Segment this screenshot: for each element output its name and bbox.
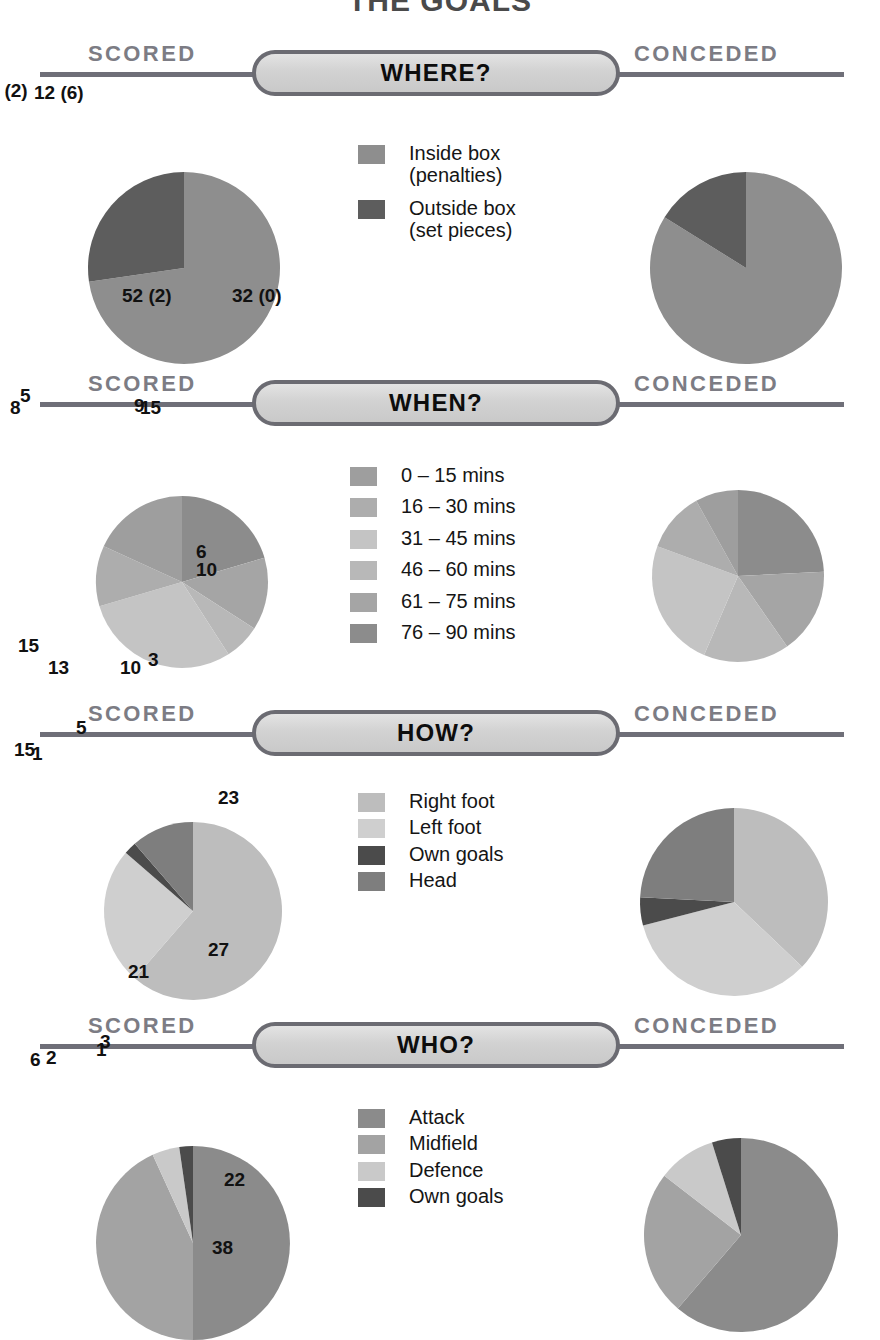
legend-swatch [350,561,377,580]
legend-swatch [350,624,377,643]
legend-label: Outside box (set pieces) [409,197,516,242]
legend-item: Attack [358,1106,504,1128]
slice-value-label: 8 [10,398,21,417]
legend-item: 0 – 15 mins [350,464,516,486]
legend-item: Right foot [358,790,504,812]
charts-row-who: 221921381563 Attack Midfield Defence Own… [0,1062,880,1332]
rule-right [616,1044,844,1049]
legend-who: Attack Midfield Defence Own goals [358,1106,504,1212]
rule-right [616,732,844,737]
rule-right [616,72,844,77]
section-heading: WHO? [397,1031,475,1059]
slice-value-label: 23 [218,788,239,807]
slice-value-label: 38 [212,1238,233,1257]
rule-left [40,1044,258,1049]
label-conceded: CONCEDED [634,1013,779,1039]
charts-row-how: 2711152321315 Right foot Left foot Own g… [0,750,880,1010]
legend-swatch [350,498,377,517]
legend-swatch [358,145,385,164]
charts-row-when: 96313581510101575 0 – 15 mins 16 – 30 mi… [0,420,880,688]
legend-item: Midfield [358,1132,504,1154]
legend-label: 31 – 45 mins [401,527,516,549]
section-header-who: SCORED CONCEDED WHO? [0,1000,880,1062]
section-header-how: SCORED CONCEDED HOW? [0,688,880,750]
slice-value-label: 10 [120,658,141,677]
legend-item: 76 – 90 mins [350,621,516,643]
legend-label: Left foot [409,816,481,838]
legend-where: Inside box (penalties) Outside box (set … [358,142,516,252]
label-conceded: CONCEDED [634,701,779,727]
label-conceded: CONCEDED [634,41,779,67]
legend-item: Own goals [358,843,504,865]
legend-item: 46 – 60 mins [350,558,516,580]
legend-label: Inside box (penalties) [409,142,502,187]
slice-value-label: 12 (6) [34,83,84,102]
slice-value-label: 5 [76,718,87,737]
legend-swatch [358,872,385,891]
slice-value-label: 15 [18,636,39,655]
legend-when: 0 – 15 mins 16 – 30 mins 31 – 45 mins 46… [350,464,516,652]
slice-value-label: 13 [48,658,69,677]
slice-value-label: 10 (2) [0,81,28,100]
legend-label: Attack [409,1106,465,1128]
legend-swatch [358,1135,385,1154]
rule-left [40,72,258,77]
page-title: THE GOALS [0,0,880,18]
pie-chart-who-scored [96,1146,290,1340]
slice-value-label: 27 [208,940,229,959]
legend-label: 61 – 75 mins [401,590,516,612]
slice-value-label: 22 [224,1170,245,1189]
legend-swatch [350,593,377,612]
legend-swatch [358,1162,385,1181]
label-scored: SCORED [88,371,197,397]
legend-item: 31 – 45 mins [350,527,516,549]
slice-value-label: 2 [46,1048,57,1067]
label-conceded: CONCEDED [634,371,779,397]
section-how: SCORED CONCEDED HOW? 2711152321315 Right… [0,688,880,1010]
legend-item: Inside box (penalties) [358,142,516,187]
legend-item: Left foot [358,816,504,838]
legend-swatch [358,1109,385,1128]
section-where: SCORED CONCEDED WHERE? 12 (6)32 (0)10 (2… [0,28,880,358]
legend-swatch [350,467,377,486]
legend-swatch [358,793,385,812]
section-heading: WHERE? [380,59,491,87]
pie-chart-where-conceded [650,172,842,364]
legend-item: 16 – 30 mins [350,495,516,517]
rule-right [616,402,844,407]
legend-swatch [350,530,377,549]
slice-value-label: 3 [148,650,159,669]
legend-label: 46 – 60 mins [401,558,516,580]
legend-label: Defence [409,1159,484,1181]
label-scored: SCORED [88,701,197,727]
pie-chart-how-conceded [640,808,828,996]
legend-swatch [358,200,385,219]
legend-item: Own goals [358,1185,504,1207]
slice-value-label: 6 [30,1050,41,1069]
legend-item: Outside box (set pieces) [358,197,516,242]
slice-value-label: 3 [100,1032,111,1051]
legend-swatch [358,1188,385,1207]
legend-label: Head [409,869,457,891]
pie-chart-when-scored [96,496,268,668]
label-scored: SCORED [88,41,197,67]
slice-value-label: 15 [140,398,161,417]
slice-value-label: 10 [196,560,217,579]
slice-value-label: 15 [14,740,35,759]
slice-value-label: 32 (0) [232,286,282,305]
legend-label: Midfield [409,1132,478,1154]
legend-swatch [358,819,385,838]
slice-value-label: 21 [128,962,149,981]
section-header-when: SCORED CONCEDED WHEN? [0,358,880,420]
legend-label: Own goals [409,1185,504,1207]
legend-label: 16 – 30 mins [401,495,516,517]
section-heading: WHEN? [389,389,483,417]
section-when: SCORED CONCEDED WHEN? 96313581510101575 … [0,358,880,688]
section-heading: HOW? [397,719,475,747]
slice-value-label: 52 (2) [122,286,172,305]
legend-label: 0 – 15 mins [401,464,504,486]
pie-chart-when-conceded [652,490,824,662]
legend-swatch [358,846,385,865]
legend-label: Own goals [409,843,504,865]
legend-item: Defence [358,1159,504,1181]
